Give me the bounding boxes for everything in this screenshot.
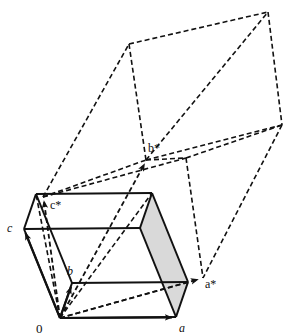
label-a-star: a* bbox=[205, 277, 216, 291]
label-b: b bbox=[67, 264, 73, 278]
label-origin: 0 bbox=[36, 321, 43, 336]
crystallography-figure: 0 a b c a* b* c* bbox=[0, 0, 292, 336]
vector-a bbox=[60, 317, 172, 318]
figure-background bbox=[0, 0, 292, 336]
label-b-star: b* bbox=[148, 141, 160, 155]
direct-edge-bottom-back bbox=[72, 282, 188, 283]
label-c-star: c* bbox=[50, 198, 61, 212]
lattice-diagram: 0 a b c a* b* c* bbox=[0, 0, 292, 336]
label-a: a bbox=[179, 321, 185, 335]
direct-edge-top-back bbox=[36, 193, 152, 194]
label-c: c bbox=[7, 221, 13, 235]
direct-edge-top-front bbox=[24, 228, 140, 229]
